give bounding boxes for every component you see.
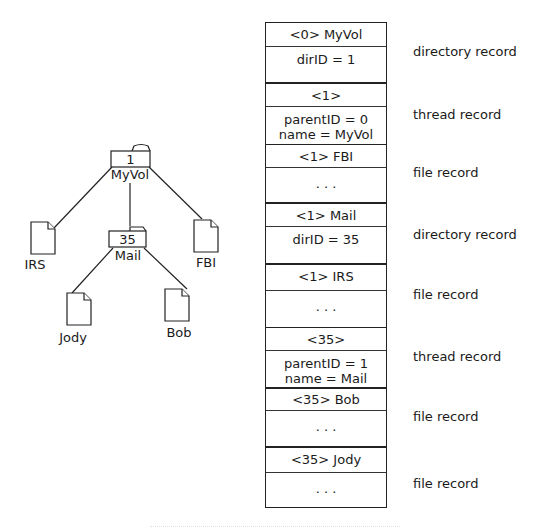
record-key: <1> IRS (266, 270, 386, 284)
record-key: <35> Jody (266, 453, 386, 467)
node-label-jody: Jody (53, 331, 93, 345)
divider (266, 350, 386, 351)
catalog-record-file: <1> IRS · · · (266, 263, 386, 327)
record-type-label: file record (413, 288, 478, 302)
catalog-record-file: <35> Bob · · · (266, 387, 386, 447)
record-body: · · · (266, 180, 386, 195)
record-key: <35> Bob (266, 393, 386, 407)
folder-id-label: 35 (109, 233, 146, 247)
node-label-mail: Mail (98, 249, 158, 263)
record-body-line: parentID = 1 (266, 356, 386, 371)
record-type-label: thread record (413, 350, 501, 364)
folder-id-label: 1 (111, 153, 150, 167)
node-label-myvol: MyVol (100, 168, 160, 182)
record-body-line: name = Mail (266, 371, 386, 386)
catalog-record-file: <35> Jody · · · (266, 446, 386, 509)
record-key: <35> (266, 333, 386, 347)
record-body-line: parentID = 0 (266, 112, 386, 127)
node-label-fbi: FBI (186, 256, 226, 270)
divider (266, 226, 386, 227)
divider (266, 106, 386, 107)
record-body-line: name = MyVol (266, 127, 386, 142)
record-key: <1> FBI (266, 150, 386, 164)
record-body: dirID = 35 (266, 232, 386, 247)
record-type-label: thread record (413, 108, 501, 122)
catalog-record-thread: <35> parentID = 1 name = Mail (266, 327, 386, 388)
record-type-label: file record (413, 477, 478, 491)
record-type-label: file record (413, 410, 478, 424)
file-icon (165, 289, 189, 321)
file-icon (31, 222, 55, 254)
record-body: dirID = 1 (266, 52, 386, 67)
node-label-irs: IRS (15, 258, 55, 272)
record-type-label: file record (413, 166, 478, 180)
divider (266, 167, 386, 168)
catalog-record-directory: <0> MyVol dirID = 1 (266, 23, 386, 83)
node-label-bob: Bob (159, 326, 199, 340)
record-key: <0> MyVol (266, 28, 386, 42)
record-body: · · · (266, 303, 386, 318)
record-body: · · · (266, 485, 386, 500)
divider (266, 472, 386, 473)
file-icon (194, 220, 218, 252)
catalog-record-file: <1> FBI · · · (266, 144, 386, 203)
catalog-record-thread: <1> parentID = 0 name = MyVol (266, 82, 386, 144)
divider (266, 410, 386, 411)
divider (266, 290, 386, 291)
figure-caption-clipped (150, 526, 400, 531)
catalog-records-table: <0> MyVol dirID = 1 <1> parentID = 0 nam… (265, 22, 387, 508)
record-type-label: directory record (413, 228, 517, 242)
file-icon (67, 293, 91, 325)
record-key: <1> Mail (266, 209, 386, 223)
record-type-label: directory record (413, 45, 517, 59)
record-body: · · · (266, 423, 386, 438)
catalog-record-directory: <1> Mail dirID = 35 (266, 202, 386, 264)
divider (266, 46, 386, 47)
record-key: <1> (266, 89, 386, 103)
